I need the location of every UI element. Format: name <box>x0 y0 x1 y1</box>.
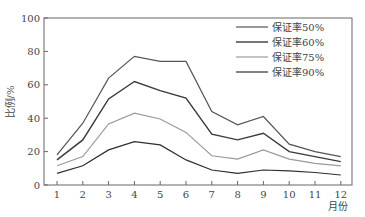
legend-label: 保证率50% <box>272 21 324 33</box>
x-tick-label: 8 <box>234 189 240 200</box>
x-tick-label: 11 <box>309 189 322 200</box>
x-tick-label: 2 <box>80 189 86 200</box>
series-line-2 <box>57 113 341 166</box>
y-tick-label: 40 <box>27 113 40 124</box>
x-tick-label: 10 <box>283 189 296 200</box>
x-tick-label: 9 <box>260 189 266 200</box>
y-tick-label: 100 <box>21 13 40 24</box>
line-chart: 020406080100 123456789101112 比例/% 月份 保证率… <box>0 0 365 217</box>
legend-label: 保证率90% <box>272 66 324 78</box>
legend-label: 保证率75% <box>272 51 324 63</box>
legend-label: 保证率60% <box>272 36 324 48</box>
x-tick-label: 6 <box>183 189 189 200</box>
y-tick-label: 60 <box>27 79 40 90</box>
x-tick-label: 1 <box>54 189 60 200</box>
x-tick-label: 12 <box>334 189 347 200</box>
legend: 保证率50%保证率60%保证率75%保证率90% <box>236 21 324 78</box>
x-axis: 123456789101112 <box>54 181 347 200</box>
y-tick-label: 80 <box>27 46 40 57</box>
x-tick-label: 3 <box>105 189 111 200</box>
x-tick-label: 5 <box>157 189 163 200</box>
y-axis-title: 比例/% <box>4 86 16 119</box>
x-tick-label: 7 <box>209 189 215 200</box>
y-tick-label: 0 <box>34 180 40 191</box>
y-tick-label: 20 <box>27 146 40 157</box>
x-axis-title: 月份 <box>328 201 348 212</box>
x-tick-label: 4 <box>131 189 137 200</box>
